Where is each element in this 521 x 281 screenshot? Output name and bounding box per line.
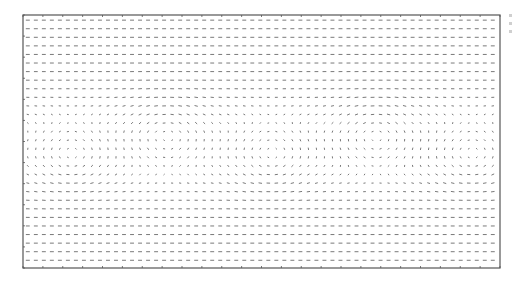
vector-arrow [139, 114, 141, 115]
vector-arrow [228, 165, 229, 166]
vector-arrow [404, 131, 405, 133]
vector-arrow [492, 165, 493, 166]
vector-arrow [300, 140, 301, 141]
vector-arrow [108, 165, 109, 166]
vector-arrow [43, 114, 44, 115]
vector-arrow [187, 106, 190, 107]
vector-arrow [107, 183, 109, 184]
vector-arrow [388, 131, 389, 132]
vector-arrow [308, 165, 309, 166]
vector-arrow [452, 165, 453, 166]
vector-arrow [76, 148, 77, 149]
vector-arrow [292, 140, 293, 141]
vector-arrow [147, 114, 149, 115]
vector-arrow [356, 165, 357, 166]
vector-arrow [44, 131, 45, 132]
vector-arrow [188, 148, 189, 149]
vector-arrow [179, 123, 181, 124]
vector-arrow [59, 140, 60, 141]
vector-arrow [115, 174, 116, 175]
vector-arrow [395, 114, 397, 115]
vector-arrow [123, 106, 125, 107]
vector-field-arrows [26, 20, 494, 260]
vector-arrow [348, 148, 349, 149]
vector-arrow [340, 131, 341, 132]
vector-arrow [220, 123, 221, 124]
vector-arrow [396, 174, 397, 175]
vector-arrow [420, 165, 421, 166]
vector-arrow [235, 174, 237, 175]
vector-arrow [284, 140, 285, 141]
vector-arrow [227, 183, 229, 184]
vector-arrow [460, 166, 462, 167]
vector-arrow [356, 123, 358, 124]
vector-arrow [404, 122, 405, 123]
vector-arrow [316, 114, 317, 115]
vector-arrow [476, 157, 477, 158]
vector-arrow [244, 114, 245, 115]
vector-arrow [51, 114, 52, 115]
vector-arrow [83, 140, 84, 141]
vector-arrow [460, 148, 461, 149]
vector-arrow [187, 114, 189, 115]
vector-arrow [276, 157, 277, 158]
vector-arrow [155, 123, 157, 124]
vector-arrow [291, 174, 293, 175]
vector-arrow [84, 148, 85, 149]
vector-arrow [99, 174, 101, 175]
vector-arrow [364, 166, 365, 167]
vector-arrow [212, 165, 213, 166]
vector-arrow [59, 174, 61, 175]
vector-arrow [251, 183, 254, 184]
vector-arrow [92, 131, 93, 132]
vector-arrow [403, 106, 405, 107]
vector-arrow [284, 123, 285, 124]
vector-arrow [100, 139, 101, 141]
vector-arrow [172, 149, 173, 150]
vector-arrow [356, 148, 357, 149]
vector-arrow [204, 131, 205, 132]
vector-arrow [140, 157, 141, 158]
vector-arrow [91, 174, 93, 175]
vector-arrow [236, 165, 237, 166]
legend-fragment-mark [509, 30, 512, 33]
vector-arrow [340, 174, 341, 175]
vector-arrow [420, 106, 422, 107]
vector-arrow [485, 123, 486, 124]
vector-arrow [115, 114, 117, 115]
vector-arrow [196, 157, 197, 158]
vector-arrow [35, 174, 37, 175]
vector-arrow [299, 174, 301, 175]
vector-arrow [428, 183, 430, 184]
vector-arrow [147, 123, 149, 124]
vector-arrow [155, 157, 156, 158]
vector-arrow [260, 148, 261, 149]
vector-arrow [260, 157, 261, 158]
vector-arrow [83, 131, 84, 132]
vector-arrow [139, 106, 142, 107]
vector-arrow [444, 183, 446, 184]
vector-arrow [388, 148, 389, 149]
vector-arrow [452, 131, 453, 132]
vector-arrow [131, 114, 133, 115]
legend-fragment-mark [509, 14, 512, 17]
vector-arrow [324, 174, 325, 175]
vector-arrow [420, 183, 422, 184]
vector-arrow [75, 140, 76, 141]
vector-arrow [452, 140, 453, 141]
vector-arrow [260, 131, 261, 132]
vector-arrow [220, 165, 221, 166]
vector-arrow [404, 114, 406, 115]
vector-arrow [412, 114, 414, 115]
vector-arrow [284, 131, 285, 132]
vector-arrow [203, 106, 205, 107]
vector-arrow [355, 114, 357, 115]
vector-arrow [195, 122, 196, 123]
vector-arrow [148, 131, 149, 132]
vector-arrow [347, 106, 350, 107]
vector-arrow [35, 183, 37, 184]
vector-arrow [220, 174, 221, 175]
vector-arrow [355, 106, 358, 107]
vector-arrow [476, 148, 477, 149]
vector-arrow [155, 114, 157, 115]
